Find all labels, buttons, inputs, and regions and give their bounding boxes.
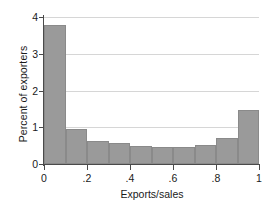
x-tick-mark (87, 165, 88, 170)
x-axis-label: Exports/sales (44, 188, 260, 200)
x-tick-label: .6 (158, 172, 188, 184)
y-tick-label: 1 (22, 122, 38, 132)
bar-series (44, 17, 259, 164)
y-tick-label: 4 (22, 12, 38, 22)
y-tick-label: 2 (22, 86, 38, 96)
x-tick-label: 1 (244, 172, 271, 184)
x-tick-label: .4 (115, 172, 145, 184)
histogram-bar (238, 110, 260, 164)
histogram-bar (152, 147, 174, 164)
x-axis-line (44, 164, 260, 165)
histogram-bar (195, 145, 217, 164)
histogram-bar (173, 147, 195, 164)
histogram-bar (44, 25, 66, 164)
x-tick-mark (130, 165, 131, 170)
histogram-bar (66, 129, 88, 164)
x-tick-label: .2 (72, 172, 102, 184)
y-tick-label: 3 (22, 49, 38, 59)
histogram-figure: Percent of exporters 01234 0.2.4.6.81 Ex… (0, 0, 271, 206)
x-tick-label: .8 (201, 172, 231, 184)
x-tick-mark (173, 165, 174, 170)
x-tick-mark (259, 165, 260, 170)
histogram-bar (216, 138, 238, 164)
x-tick-mark (44, 165, 45, 170)
plot-area (44, 17, 259, 164)
histogram-bar (130, 146, 152, 164)
histogram-bar (109, 143, 131, 164)
histogram-bar (87, 141, 109, 164)
x-tick-mark (216, 165, 217, 170)
x-tick-label: 0 (29, 172, 59, 184)
y-tick-label: 0 (22, 159, 38, 169)
